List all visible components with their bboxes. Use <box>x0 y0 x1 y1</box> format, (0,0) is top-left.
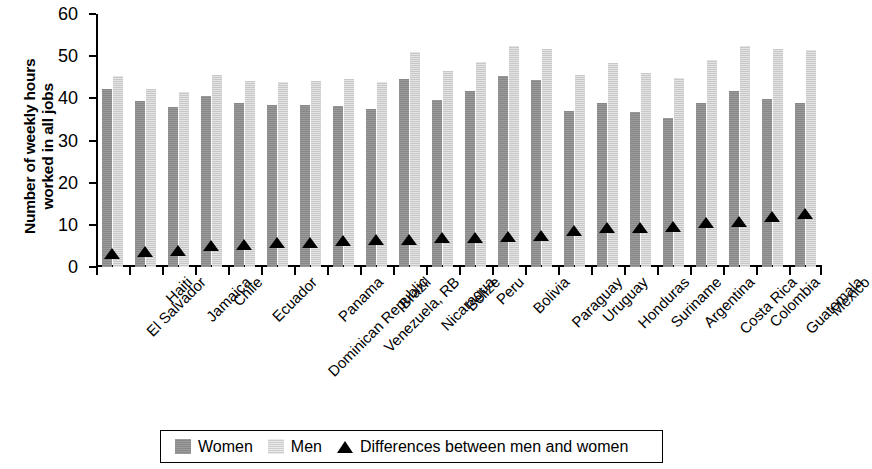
bar-women <box>630 112 641 267</box>
difference-marker <box>434 232 450 243</box>
bar-group <box>630 14 652 267</box>
bar-women <box>168 107 179 267</box>
y-tick: 60 <box>89 13 96 15</box>
difference-marker <box>401 234 417 245</box>
bar-group <box>597 14 619 267</box>
bar-group <box>135 14 157 267</box>
y-tick: 20 <box>89 182 96 184</box>
bar-men <box>179 92 190 267</box>
bar-group <box>663 14 685 267</box>
men-swatch-icon <box>268 439 284 454</box>
bar-group <box>102 14 124 267</box>
difference-marker <box>170 245 186 256</box>
bar-women <box>597 103 608 267</box>
bar-women <box>729 91 740 267</box>
bar-women <box>102 89 113 267</box>
x-axis-label: Bolivia <box>529 274 571 316</box>
y-tick-label: 60 <box>58 5 78 23</box>
bar-women <box>663 118 674 267</box>
y-tick-label: 50 <box>58 47 78 65</box>
bar-group <box>234 14 256 267</box>
legend-entry-men: Men <box>268 439 322 455</box>
bar-group <box>333 14 355 267</box>
bar-group <box>729 14 751 267</box>
bar-men <box>674 78 685 267</box>
bar-men <box>707 60 718 267</box>
difference-marker <box>137 246 153 257</box>
y-axis-line <box>96 14 98 267</box>
difference-marker <box>566 225 582 236</box>
bar-group <box>795 14 817 267</box>
bar-group <box>564 14 586 267</box>
y-tick-label: 10 <box>58 216 78 234</box>
bar-women <box>135 101 146 267</box>
bar-men <box>113 76 124 267</box>
bar-men <box>575 75 586 267</box>
difference-marker <box>203 240 219 251</box>
y-tick: 0 <box>89 266 96 268</box>
bar-group <box>465 14 487 267</box>
bar-women <box>564 111 575 267</box>
chart-legend: Women Men Differences between men and wo… <box>160 430 663 463</box>
bar-women <box>762 99 773 267</box>
difference-marker <box>104 248 120 259</box>
y-tick: 10 <box>89 224 96 226</box>
difference-marker <box>500 231 516 242</box>
difference-marker <box>269 237 285 248</box>
difference-marker <box>665 221 681 232</box>
y-axis-title: Number of weekly hours worked in all job… <box>21 11 58 281</box>
difference-marker <box>698 217 714 228</box>
y-tick-label: 40 <box>58 89 78 107</box>
bar-group <box>531 14 553 267</box>
bar-men <box>773 49 784 267</box>
difference-marker <box>236 239 252 250</box>
difference-marker <box>764 211 780 222</box>
triangle-marker-icon <box>337 441 353 453</box>
x-axis-label: Ecuador <box>269 274 319 324</box>
bar-group <box>300 14 322 267</box>
legend-label-differences: Differences between men and women <box>360 439 628 455</box>
bar-men <box>806 50 817 267</box>
y-tick: 30 <box>89 140 96 142</box>
bar-group <box>762 14 784 267</box>
bar-group <box>267 14 289 267</box>
difference-marker <box>731 216 747 227</box>
bar-group <box>696 14 718 267</box>
plot-area: 0102030405060 <box>96 14 822 267</box>
difference-marker <box>797 208 813 219</box>
legend-label-men: Men <box>291 439 322 455</box>
bar-men <box>146 89 157 267</box>
bar-group <box>498 14 520 267</box>
y-tick-label: 0 <box>68 258 78 276</box>
bar-group <box>201 14 223 267</box>
bar-group <box>168 14 190 267</box>
bar-women <box>696 103 707 267</box>
y-tick: 50 <box>89 55 96 57</box>
y-tick-label: 30 <box>58 132 78 150</box>
legend-entry-differences: Differences between men and women <box>337 439 628 455</box>
bar-group <box>399 14 421 267</box>
x-axis-labels: El SalvadorHaitiJamaicaChileEcuadorDomin… <box>96 272 822 412</box>
bar-women <box>795 103 806 267</box>
difference-marker <box>533 230 549 241</box>
bar-group <box>366 14 388 267</box>
women-swatch-icon <box>175 439 191 454</box>
difference-marker <box>467 232 483 243</box>
bar-men <box>212 75 223 267</box>
legend-label-women: Women <box>198 439 253 455</box>
legend-entry-women: Women <box>175 439 253 455</box>
y-tick: 40 <box>89 97 96 99</box>
difference-marker <box>599 222 615 233</box>
bar-men <box>608 63 619 267</box>
difference-marker <box>368 234 384 245</box>
y-tick-label: 20 <box>58 174 78 192</box>
bar-men <box>740 46 751 267</box>
difference-marker <box>335 235 351 246</box>
difference-marker <box>632 222 648 233</box>
difference-marker <box>302 237 318 248</box>
bar-group <box>432 14 454 267</box>
bar-men <box>641 73 652 267</box>
